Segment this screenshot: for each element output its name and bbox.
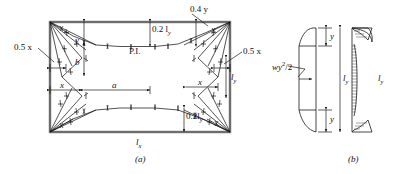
label-dim-b: b (75, 58, 80, 67)
label-top-dim-02ly: 0.2 ly (152, 25, 171, 36)
label-half-x-left: 0.5 x (14, 43, 32, 52)
label-dim-x-left: x (60, 81, 64, 90)
label-load-expression: wy2/2 (272, 61, 292, 72)
label-diagram-ly: ly (378, 74, 383, 85)
label-dim-a: a (112, 81, 117, 90)
label-dim-x-right: x (198, 78, 202, 87)
label-top-y: y (330, 32, 334, 41)
label-point-04y: 0.4 y (190, 5, 208, 14)
label-bottom-dim-02ly: 0.2ly (186, 112, 203, 123)
moment-diagram (352, 28, 372, 132)
label-side-ly: ly (231, 73, 236, 84)
caption-panel-b: (b) (348, 155, 359, 164)
panel-a-plan (38, 14, 242, 132)
leader-04y (192, 14, 208, 26)
leader-05x-left (38, 48, 54, 62)
label-dim-y: y (75, 36, 79, 45)
leader-05x-right (224, 52, 242, 64)
panel-b-dimensions (318, 28, 340, 132)
label-overall-ly: ly (343, 74, 348, 85)
label-half-x-right: 0.5 x (243, 47, 261, 56)
label-base-lx: lx (136, 138, 141, 149)
label-point-of-inflection: P.I. (129, 47, 141, 56)
label-bottom-y: y (330, 115, 334, 124)
caption-panel-a: (a) (135, 155, 146, 164)
load-distribution-shape (299, 28, 316, 132)
